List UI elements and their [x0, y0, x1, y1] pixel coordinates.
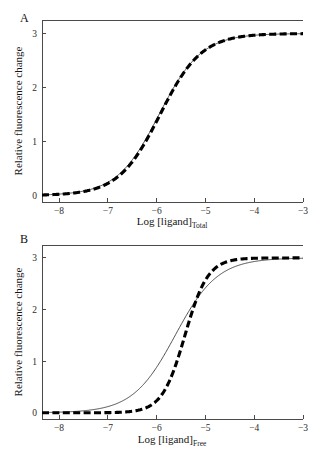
y-tick-label: 0 [32, 191, 37, 201]
panel-a-ticks: −8−7−6−5−4−30123 [32, 29, 308, 216]
y-tick-label: 3 [32, 29, 37, 39]
dashed-thick-curve [42, 34, 303, 195]
x-tick-label: −4 [249, 206, 259, 216]
dashed-thick-curve [42, 258, 303, 413]
y-tick-label: 1 [32, 357, 37, 367]
x-tick-label: −5 [200, 423, 210, 433]
panel-b-xaxis-title-main: Log [ligand] [138, 433, 193, 445]
panel-a-curves [42, 34, 303, 195]
x-tick-label: −7 [103, 423, 113, 433]
x-tick-label: −4 [249, 423, 259, 433]
x-tick-label: −3 [298, 206, 308, 216]
solid-thin-curve [42, 258, 303, 412]
x-tick-label: −8 [54, 423, 64, 433]
y-tick-label: 3 [32, 253, 37, 263]
x-tick-label: −5 [200, 206, 210, 216]
axis-frame [42, 20, 303, 202]
x-tick-label: −8 [54, 206, 64, 216]
panel-a: A −8−7−6−5−4−30123 Log [ligand]Total Rel… [0, 0, 324, 232]
panel-a-yaxis-title: Relative fluorescence change [12, 46, 24, 175]
panel-b-ticks: −8−7−6−5−4−30123 [32, 253, 308, 433]
y-tick-label: 2 [32, 305, 37, 315]
axis-frame [42, 245, 303, 419]
panel-a-plot: −8−7−6−5−4−30123 Log [ligand]Total Relat… [0, 0, 324, 232]
panel-b-xaxis-title-sub: Free [193, 439, 207, 448]
y-tick-label: 0 [32, 408, 37, 418]
panel-b-axes [42, 245, 303, 419]
panel-b-curves [42, 258, 303, 413]
x-tick-label: −6 [152, 423, 162, 433]
panel-b: B −8−7−6−5−4−30123 Log [ligand]Free Rela… [0, 223, 324, 465]
y-tick-label: 1 [32, 137, 37, 147]
y-tick-label: 2 [32, 83, 37, 93]
x-tick-label: −3 [298, 423, 308, 433]
x-tick-label: −7 [103, 206, 113, 216]
panel-b-yaxis-title: Relative fluorescence change [12, 267, 24, 396]
panel-b-xaxis-title: Log [ligand]Free [138, 433, 207, 448]
figure-container: A −8−7−6−5−4−30123 Log [ligand]Total Rel… [0, 0, 324, 465]
panel-b-plot: −8−7−6−5−4−30123 Log [ligand]Free Relati… [0, 223, 324, 465]
panel-a-axes [42, 20, 303, 202]
solid-thin-curve [42, 34, 303, 195]
